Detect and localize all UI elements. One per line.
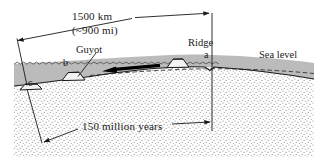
- figure-container: 1500 km (~900 mi) Ridge a Sea level Guyo…: [0, 0, 314, 157]
- point-a-label: a: [204, 49, 208, 60]
- guyot-label: Guyot: [76, 44, 102, 55]
- age-label: 150 million years: [82, 120, 162, 132]
- point-c-label: c: [28, 77, 32, 88]
- distance-km-label: 1500 km: [72, 10, 112, 22]
- ridge-label: Ridge: [188, 37, 213, 48]
- sea-level-label: Sea level: [259, 49, 297, 60]
- point-b-label: b: [63, 57, 68, 68]
- distance-mi-label: (~900 mi): [72, 24, 118, 36]
- diagram-canvas: [0, 0, 314, 157]
